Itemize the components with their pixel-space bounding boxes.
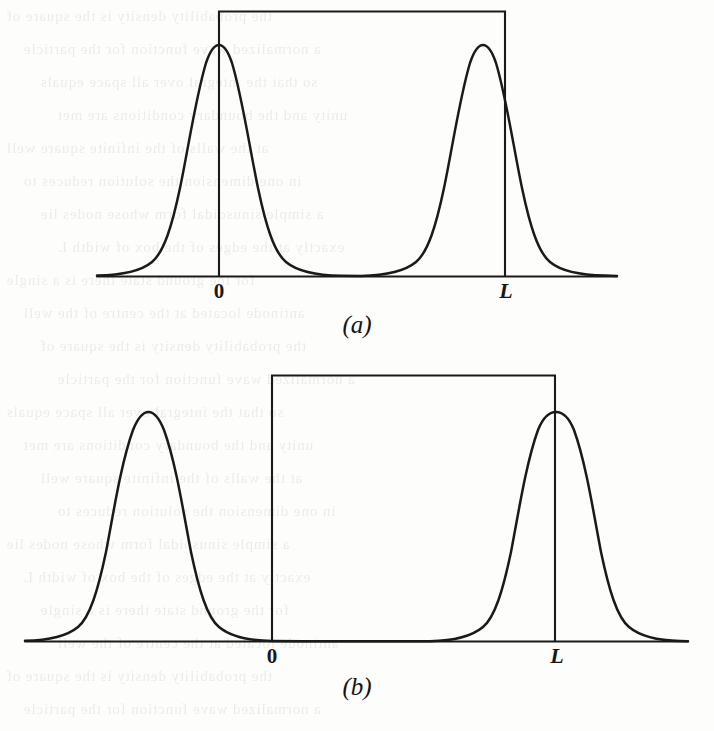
panel-b-tick-label-L: L — [537, 643, 577, 669]
panel-a-well-box — [219, 12, 505, 277]
panel-b: 0 L (b) — [0, 360, 714, 731]
panel-b-wavefunction — [25, 412, 688, 641]
panel-a-tick-label-L: L — [486, 278, 526, 304]
panel-a-caption: (a) — [317, 311, 397, 339]
panel-b-caption: (b) — [317, 673, 397, 701]
panel-a-plot — [0, 0, 714, 360]
panel-a-wavefunction — [97, 45, 617, 276]
panel-a: 0 L (a) — [0, 0, 714, 360]
panel-b-tick-label-zero: 0 — [252, 644, 292, 669]
figure-root: the probability density is the square of… — [0, 0, 714, 731]
panel-b-well-box — [272, 376, 555, 642]
panel-a-tick-label-zero: 0 — [199, 279, 239, 304]
